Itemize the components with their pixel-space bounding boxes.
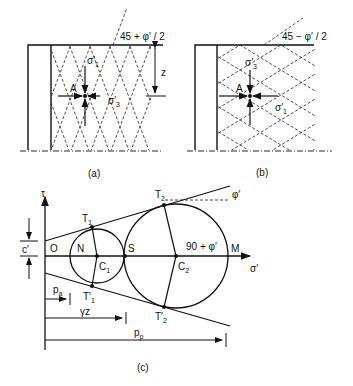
rankine-earth-pressure-diagram: 45 + φ′ / 2 z A σ′1 σ′3 (a)	[0, 0, 353, 386]
origin-label: O	[50, 243, 58, 254]
failure-envelope-upper	[45, 186, 230, 241]
sigma3-label-a: σ′3	[108, 95, 120, 108]
cohesion-label: c′	[22, 244, 29, 255]
pp-label: pp	[134, 327, 144, 341]
sigma1-label-b: σ′1	[275, 102, 287, 115]
m-label: M	[231, 243, 239, 254]
t2-prime-label: T′2	[155, 311, 167, 324]
n-label: N	[77, 243, 84, 254]
c2-label: C2	[178, 261, 189, 274]
sigma3-label-b: σ′3	[245, 57, 257, 70]
point-a-label: A	[70, 83, 77, 94]
panel-c: τ σ′ φ′ c′ O N S M 90 + φ′ C1 C2	[20, 186, 258, 373]
depth-label: z	[161, 67, 166, 78]
gamma-z-label: γz	[80, 306, 90, 317]
angle-label-a: 45 + φ′ / 2	[120, 31, 165, 42]
sigma1-label-a: σ′1	[87, 55, 99, 68]
t1-prime-label: T′1	[83, 291, 95, 304]
tau-label: τ	[41, 188, 45, 199]
panel-a: 45 + φ′ / 2 z A σ′1 σ′3 (a)	[0, 8, 220, 180]
caption-a: (a)	[88, 168, 100, 179]
point-a-label-b: A	[236, 83, 243, 94]
t1-label: T1	[82, 213, 92, 226]
phi-label: φ′	[232, 189, 240, 200]
panel-b: 45 − φ′ / 2 A σ′3 σ′1 (b)	[150, 0, 332, 250]
c1-label: C1	[99, 261, 110, 274]
sigma-axis-label: σ′	[250, 263, 258, 274]
pa-label: pa	[53, 284, 63, 297]
stress-arrows-b	[219, 70, 278, 125]
angle-label-b: 45 − φ′ / 2	[282, 31, 327, 42]
s-label: S	[128, 243, 135, 254]
caption-c: (c)	[137, 362, 149, 373]
caption-b: (b)	[256, 167, 268, 178]
angle-label-c: 90 + φ′	[186, 241, 217, 252]
t2-label: T2	[155, 189, 165, 202]
